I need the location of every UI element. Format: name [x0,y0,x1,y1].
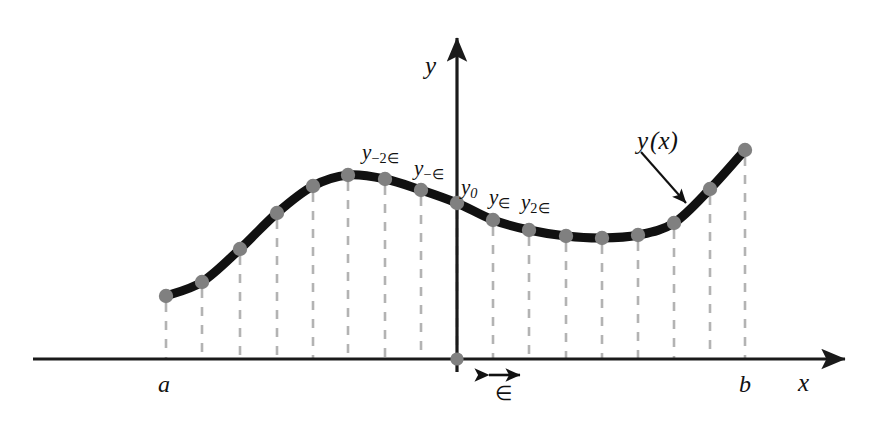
sample-point [195,275,209,289]
sample-point [414,183,428,197]
sample-point [522,223,536,237]
sample-point [559,229,573,243]
function-label-leader-arrow [641,152,686,203]
epsilon-spacing-label: ∈ [495,383,512,403]
point-label-base: y [461,175,470,199]
figure-canvas: y x a b y(x) ∈ y−2∈y−∈y0y∈y2∈ [0,0,884,423]
point-label-y-minus-2eps: y−2∈ [362,142,399,163]
point-label-y-plus-eps: y∈ [489,187,511,208]
origin-dot [450,352,463,365]
sample-point [595,231,609,245]
sample-point [270,206,284,220]
function-label-arg: (x) [650,127,678,154]
x-axis-label: x [798,370,809,395]
point-label-base: y [414,156,423,180]
sample-point [233,242,247,256]
sample-point [341,168,355,182]
sample-point [159,289,173,303]
sample-point [667,216,681,230]
sample-point [631,228,645,242]
point-label-y-plus-2eps: y2∈ [521,192,550,213]
point-label-y-zero: y0 [461,177,478,198]
y-axis-label: y [425,53,436,78]
function-label-y: y [637,127,648,154]
point-label-base: y [362,140,371,164]
point-label-subscript: 0 [470,185,477,201]
sample-point [703,182,717,196]
sample-point [306,179,320,193]
point-label-base: y [521,190,530,214]
function-label: y(x) [637,128,678,153]
interval-end-label: b [739,372,751,396]
point-label-base: y [489,185,498,209]
point-label-subscript: ∈ [498,195,510,211]
point-label-y-minus-eps: y−∈ [414,158,444,179]
point-label-subscript: 2∈ [530,200,550,216]
point-label-subscript: −∈ [423,166,443,182]
interval-start-label: a [158,372,170,396]
sample-point [378,172,392,186]
diagram-svg [0,0,884,423]
sample-point [486,213,500,227]
sample-point [738,143,752,157]
point-label-subscript: −2∈ [371,150,399,166]
